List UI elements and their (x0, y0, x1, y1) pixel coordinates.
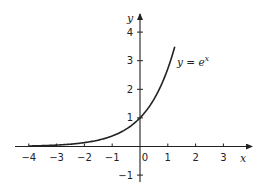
x-tick-label: −4 (21, 152, 36, 163)
y-axis-label: y (126, 12, 134, 25)
y-tick-label: 4 (127, 27, 133, 38)
x-tick-label: −2 (77, 152, 92, 163)
x-tick-label: −3 (49, 152, 64, 163)
curve (29, 47, 175, 146)
x-tick-label: −1 (105, 152, 120, 163)
exponential-chart: −4−3−2−10123−11234xyy = ex (0, 0, 267, 190)
x-tick-label: 0 (142, 152, 148, 163)
x-tick-label: 2 (192, 152, 198, 163)
y-tick-label: 1 (127, 112, 133, 123)
y-tick-label: −1 (118, 170, 133, 181)
y-tick-label: 3 (127, 55, 133, 66)
labels: −4−3−2−10123−11234xyy = ex (21, 12, 247, 181)
y-tick-label: 2 (127, 84, 133, 95)
curve-annotation: y = ex (176, 54, 210, 68)
x-tick-label: 3 (220, 152, 226, 163)
x-axis-label: x (240, 152, 247, 165)
exp-curve (29, 47, 175, 146)
x-tick-label: 1 (165, 152, 171, 163)
